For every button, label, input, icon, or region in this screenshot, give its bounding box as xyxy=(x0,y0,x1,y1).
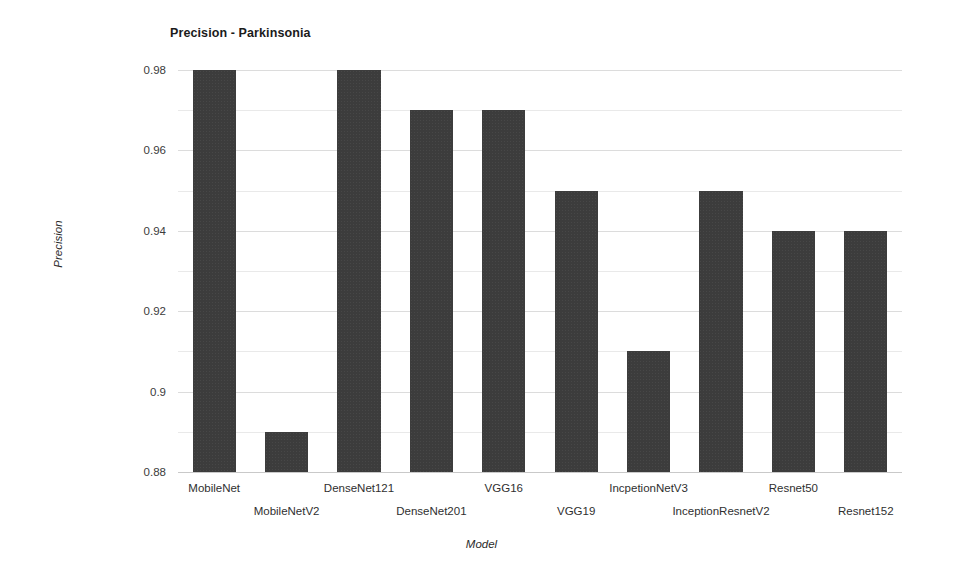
x-axis-tick-label: MobileNet xyxy=(188,482,240,494)
bar-chart: Precision - Parkinsonia Precision 0.980.… xyxy=(0,0,963,566)
gridline-major xyxy=(178,70,902,71)
x-axis-tick-label: DenseNet121 xyxy=(324,482,394,494)
x-axis-tick-label: DenseNet201 xyxy=(396,505,466,517)
x-axis-tick-label: Resnet152 xyxy=(838,505,894,517)
x-axis-tick-label: InceptionResnetV2 xyxy=(672,505,769,517)
x-axis-tick-label: Resnet50 xyxy=(769,482,818,494)
bar xyxy=(627,351,670,472)
gridline-major xyxy=(178,150,902,151)
bar xyxy=(844,231,887,472)
y-axis-tick-label: 0.96 xyxy=(110,144,166,156)
plot-area xyxy=(178,70,902,472)
y-axis-tick-labels: 0.980.960.940.920.90.88 xyxy=(78,0,166,566)
bar xyxy=(193,70,236,472)
chart-title: Precision - Parkinsonia xyxy=(170,26,311,40)
y-axis-title: Precision xyxy=(52,204,64,284)
x-axis-tick-label: MobileNetV2 xyxy=(254,505,320,517)
bar xyxy=(265,432,308,472)
bar xyxy=(555,191,598,472)
gridline-minor xyxy=(178,110,902,111)
y-axis-tick-label: 0.92 xyxy=(110,305,166,317)
x-axis-title: Model xyxy=(0,538,963,550)
y-axis-tick-label: 0.94 xyxy=(110,225,166,237)
bar xyxy=(337,70,380,472)
x-axis-tick-label: IncpetionNetV3 xyxy=(609,482,688,494)
gridline-minor xyxy=(178,191,902,192)
x-axis-tick-label: VGG16 xyxy=(485,482,523,494)
y-axis-tick-label: 0.98 xyxy=(110,64,166,76)
x-axis-tick-label: VGG19 xyxy=(557,505,595,517)
x-axis-tick-labels: MobileNetMobileNetV2DenseNet121DenseNet2… xyxy=(178,472,902,532)
bar xyxy=(772,231,815,472)
bar xyxy=(482,110,525,472)
bar xyxy=(699,191,742,472)
y-axis-tick-label: 0.9 xyxy=(110,386,166,398)
y-axis-tick-label: 0.88 xyxy=(110,466,166,478)
bar xyxy=(410,110,453,472)
